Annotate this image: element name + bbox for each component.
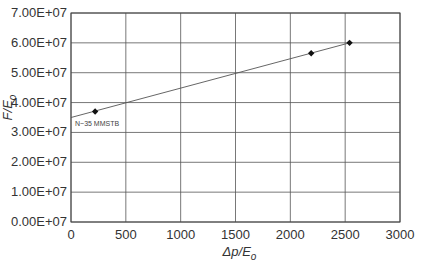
x-tick-label: 2000 bbox=[276, 227, 305, 242]
chart: 0.00E+071.00E+072.00E+073.00E+074.00E+07… bbox=[0, 0, 423, 261]
x-tick-label: 0 bbox=[67, 227, 74, 242]
x-tick-label: 1000 bbox=[166, 227, 195, 242]
data-point-marker bbox=[346, 40, 352, 46]
x-tick-label: 500 bbox=[115, 227, 137, 242]
y-tick-label: 0.00E+07 bbox=[11, 214, 67, 229]
y-tick-label: 7.00E+07 bbox=[11, 5, 67, 20]
x-tick-label: 2500 bbox=[331, 227, 360, 242]
y-axis-title-main: F/E bbox=[0, 100, 15, 121]
y-axis-title-sub: o bbox=[7, 94, 18, 100]
y-tick-label: 1.00E+07 bbox=[11, 184, 67, 199]
x-tick-label: 1500 bbox=[221, 227, 250, 242]
y-tick-label: 6.00E+07 bbox=[11, 35, 67, 50]
y-tick-label: 2.00E+07 bbox=[11, 154, 67, 169]
y-tick-label: 3.00E+07 bbox=[11, 124, 67, 139]
intercept-annotation: N~35 MMSTB bbox=[75, 120, 119, 127]
y-axis-ticks: 0.00E+071.00E+072.00E+073.00E+074.00E+07… bbox=[11, 5, 67, 229]
x-tick-label: 3000 bbox=[386, 227, 415, 242]
regression-line bbox=[71, 43, 350, 118]
y-tick-label: 4.00E+07 bbox=[11, 95, 67, 110]
x-axis-title-sub: o bbox=[251, 251, 257, 261]
x-axis-ticks: 050010001500200025003000 bbox=[67, 227, 414, 242]
x-axis-title-main: Δp/E bbox=[222, 244, 252, 259]
x-axis-title: Δp/Eo bbox=[222, 244, 257, 261]
data-point-marker bbox=[308, 50, 314, 56]
data-point-marker bbox=[92, 108, 98, 114]
y-tick-label: 5.00E+07 bbox=[11, 65, 67, 80]
